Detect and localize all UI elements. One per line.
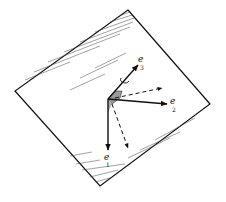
e1-subscript: 1 [106,161,110,168]
e3-label: e [138,54,143,64]
e2-subscript: 2 [172,106,176,113]
e2-label: e [170,96,175,106]
e3-subscript: 3 [140,64,144,71]
basis-vector-diagram: e 3 e 2 e 1 [0,0,226,202]
